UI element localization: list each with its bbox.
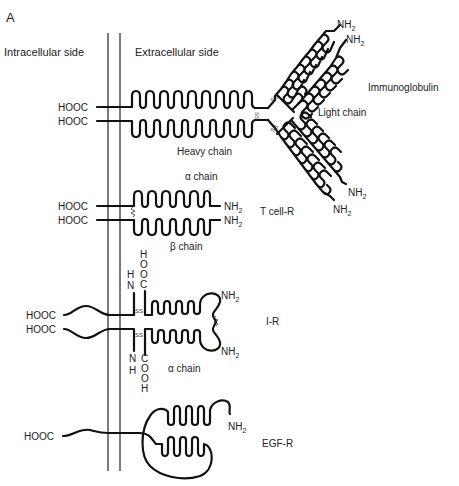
- immunoglobulin-label: Immunoglobulin: [368, 82, 439, 93]
- ir-bottom-nh2-vertical: N H: [129, 353, 136, 376]
- light-chain-label: Light chain: [318, 107, 366, 118]
- ir-top-nh2-vertical: H N: [127, 269, 134, 291]
- tcell-receptor-group: α chain HOOC HOOC NH2 NH2 T cell-R β cha…: [58, 171, 294, 252]
- ir-alpha-chain-label: α chain: [168, 363, 200, 374]
- ig-heavy-lower-nh2: NH2: [333, 204, 351, 217]
- egf-receptor-label: EGF-R: [262, 438, 293, 449]
- tcr-alpha-cooh-label: HOOC: [58, 201, 88, 212]
- tcr-alpha-chain-label: α chain: [185, 171, 217, 182]
- ir-alpha2-nh2: NH2: [221, 346, 239, 359]
- svg-text:N: N: [129, 353, 136, 364]
- ir-alpha-chain-1: [145, 291, 220, 322]
- intracellular-side-label: Intracellular side: [4, 46, 84, 58]
- ig-heavy-chain-2: [97, 120, 268, 137]
- extracellular-side-label: Extracellular side: [135, 46, 219, 58]
- panel-label: A: [6, 10, 15, 25]
- svg-text:C: C: [140, 279, 147, 290]
- tcr-beta-cooh-label: HOOC: [58, 215, 88, 226]
- ir-bottom-cooh-vertical: C O O H: [141, 353, 149, 394]
- tcr-beta-chain: [97, 219, 220, 235]
- tcr-beta-chain-label: β chain: [170, 241, 202, 252]
- ig-heavy1-cooh-label: HOOC: [58, 102, 88, 113]
- tcr-alpha-chain: [97, 191, 220, 207]
- ir-chain1-cooh-label: HOOC: [26, 310, 56, 321]
- svg-text:H: H: [127, 269, 134, 280]
- ir-beta-chain-2: [64, 329, 134, 351]
- svg-text:H: H: [141, 383, 148, 394]
- heavy-chain-label: Heavy chain: [177, 146, 232, 157]
- ir-top-cooh-vertical: H O O C: [140, 249, 148, 290]
- tcr-disulfide-bond: [131, 207, 135, 217]
- tcell-receptor-label: T cell-R: [260, 206, 294, 217]
- ig-light-chain-lower: [277, 113, 346, 185]
- insulin-receptor-label: I-R: [266, 316, 279, 327]
- tcr-beta-nh2: NH2: [224, 215, 242, 228]
- ig-light-lower-nh2: NH2: [348, 187, 366, 200]
- egfr-cooh-label: HOOC: [24, 431, 54, 442]
- ir-alpha1-nh2: NH2: [221, 290, 239, 303]
- svg-text:H: H: [129, 365, 136, 376]
- ig-light-upper-nh2: NH2: [346, 34, 364, 47]
- ig-heavy-chain-1: [97, 91, 268, 108]
- ig-heavy2-cooh-label: HOOC: [58, 116, 88, 127]
- ir-disulfide-top: SS: [135, 308, 143, 314]
- insulin-receptor-group: H O O C H N HOOC HOOC SS SS NH2 NH2 I-R …: [26, 249, 279, 394]
- ir-disulfide-bottom: SS: [135, 332, 143, 338]
- egfr-chain: [63, 400, 230, 478]
- ig-heavy-upper-nh2: NH2: [337, 19, 355, 32]
- ir-alpha-chain-2: [145, 322, 220, 355]
- ir-chain2-cooh-label: HOOC: [26, 324, 56, 335]
- ir-beta-chain-1: [64, 293, 134, 315]
- svg-text:N: N: [127, 280, 134, 291]
- egfr-nh2: NH2: [228, 421, 246, 434]
- egf-receptor-group: HOOC NH2 EGF-R: [24, 400, 293, 478]
- tcr-alpha-nh2: NH2: [224, 201, 242, 214]
- receptor-diagram: A Intracellular side Extracellular side …: [0, 0, 459, 486]
- ig-hinge-disulfide: SS: [254, 112, 260, 120]
- immunoglobulin-group: HOOC HOOC SS SS SS NH2 NH2 NH2 NH2 Immun…: [58, 19, 439, 217]
